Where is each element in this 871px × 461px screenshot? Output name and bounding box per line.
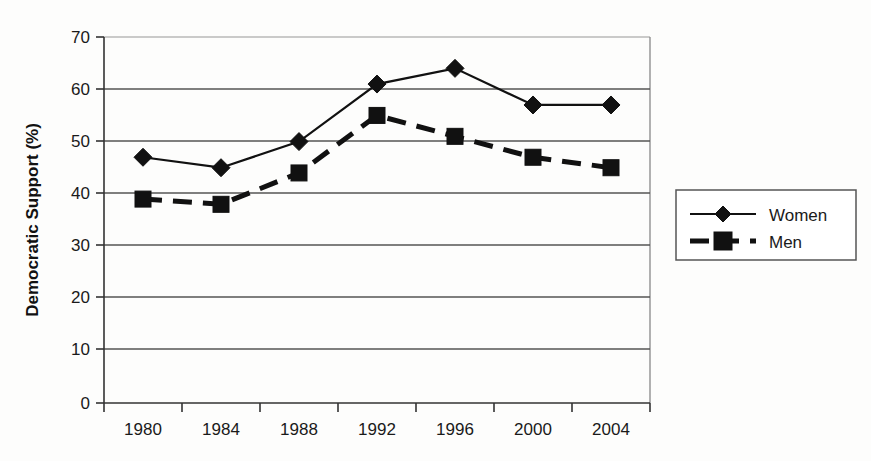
x-tick-label: 1988 [280, 420, 318, 439]
y-tick-label: 70 [71, 28, 90, 47]
y-axis [96, 37, 104, 403]
y-tick-label: 30 [71, 236, 90, 255]
legend-box [676, 190, 856, 260]
x-tick-label: 1984 [202, 420, 240, 439]
series-men [135, 107, 619, 212]
y-tick-label: 10 [71, 340, 90, 359]
square-marker-icon [603, 160, 619, 176]
x-tick-label: 1996 [436, 420, 474, 439]
legend-label-women: Women [769, 206, 827, 225]
diamond-marker-icon [212, 159, 230, 177]
y-axis-title: Democratic Support (%) [23, 123, 42, 317]
chart-figure: 70 60 50 40 30 20 10 0 Democratic Suppor… [0, 0, 871, 461]
square-marker-icon [291, 165, 307, 181]
diamond-marker-icon [290, 133, 308, 151]
x-tick-label: 2004 [592, 420, 630, 439]
diamond-marker-icon [446, 59, 464, 77]
y-tick-label: 50 [71, 132, 90, 151]
data-series-layer [134, 59, 620, 212]
diamond-marker-icon [134, 148, 152, 166]
y-tick-label: 20 [71, 288, 90, 307]
legend-label-men: Men [769, 233, 802, 252]
y-tick-labels: 70 60 50 40 30 20 10 0 [71, 28, 90, 413]
y-tick-label: 0 [81, 394, 90, 413]
square-marker-icon [447, 128, 463, 144]
diamond-marker-icon [368, 75, 386, 93]
y-tick-label: 40 [71, 184, 90, 203]
x-tick-label: 1980 [124, 420, 162, 439]
x-tick-label: 2000 [514, 420, 552, 439]
x-tick-labels: 1980 1984 1988 1992 1996 2000 2004 [124, 420, 630, 439]
line-chart: 70 60 50 40 30 20 10 0 Democratic Suppor… [0, 0, 871, 461]
diamond-marker-icon [602, 96, 620, 114]
x-axis [104, 403, 650, 412]
square-marker-icon [135, 191, 151, 207]
square-marker-icon [525, 149, 541, 165]
square-marker-icon [714, 232, 732, 250]
gridlines [104, 89, 650, 349]
x-tick-label: 1992 [358, 420, 396, 439]
legend: Women Men [676, 190, 856, 260]
y-tick-label: 60 [71, 80, 90, 99]
square-marker-icon [213, 196, 229, 212]
square-marker-icon [369, 107, 385, 123]
diamond-marker-icon [524, 96, 542, 114]
